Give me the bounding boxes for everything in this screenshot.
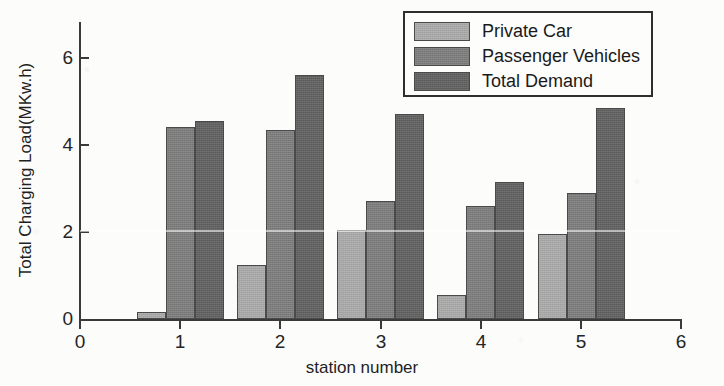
legend-swatch-private-car bbox=[414, 22, 470, 41]
x-tick-0 bbox=[79, 321, 81, 329]
x-tick-label-5: 5 bbox=[571, 332, 591, 351]
y-tick-6 bbox=[81, 57, 89, 59]
legend-label-private-car: Private Car bbox=[482, 21, 572, 42]
x-tick-1 bbox=[179, 321, 181, 329]
legend-item-passenger-vehicles: Passenger Vehicles bbox=[414, 45, 640, 67]
legend-item-private-car: Private Car bbox=[414, 20, 572, 42]
bar-station-1-series-1 bbox=[137, 312, 166, 319]
x-tick-2 bbox=[279, 321, 281, 329]
x-tick-label-3: 3 bbox=[371, 332, 391, 351]
x-tick-3 bbox=[380, 321, 382, 329]
y-tick-4 bbox=[81, 144, 89, 146]
bar-station-4-series-3 bbox=[495, 182, 524, 319]
bar-station-2-series-2 bbox=[266, 130, 295, 319]
legend-swatch-total-demand bbox=[414, 72, 470, 91]
y-tick-label-6: 6 bbox=[57, 48, 73, 67]
x-tick-6 bbox=[680, 321, 682, 329]
bar-station-3-series-3 bbox=[395, 114, 424, 319]
legend-item-total-demand: Total Demand bbox=[414, 70, 593, 92]
x-tick-label-4: 4 bbox=[471, 332, 491, 351]
legend-label-total-demand: Total Demand bbox=[482, 71, 593, 92]
y-tick-label-4: 4 bbox=[57, 135, 73, 154]
legend-swatch-passenger-vehicles bbox=[414, 47, 470, 66]
y-tick-label-2: 2 bbox=[57, 222, 73, 241]
legend-label-passenger-vehicles: Passenger Vehicles bbox=[482, 46, 640, 67]
x-axis-title: station number bbox=[0, 358, 724, 378]
chart-legend: Private Car Passenger Vehicles Total Dem… bbox=[403, 11, 653, 97]
x-tick-4 bbox=[480, 321, 482, 329]
bar-station-2-series-1 bbox=[237, 265, 266, 319]
y-axis-line bbox=[79, 22, 81, 321]
bar-station-5-series-1 bbox=[538, 234, 567, 319]
bar-station-3-series-1 bbox=[337, 230, 366, 319]
bar-station-2-series-3 bbox=[295, 75, 324, 319]
bar-station-4-series-2 bbox=[466, 206, 495, 319]
x-tick-5 bbox=[580, 321, 582, 329]
y-tick-2 bbox=[81, 231, 89, 233]
x-tick-label-2: 2 bbox=[270, 332, 290, 351]
x-tick-label-0: 0 bbox=[70, 332, 90, 351]
y-axis-title: Total Charging Load(MKw.h) bbox=[16, 63, 36, 278]
bar-station-3-series-2 bbox=[366, 201, 395, 319]
bar-station-5-series-3 bbox=[596, 108, 625, 319]
y-axis-title-wrap: Total Charging Load(MKw.h) bbox=[8, 0, 44, 340]
x-tick-label-6: 6 bbox=[671, 332, 691, 351]
y-tick-label-0: 0 bbox=[57, 309, 73, 328]
bar-station-1-series-2 bbox=[166, 127, 195, 319]
chart-page: 6 4 2 0 0 1 2 3 4 5 6 Total Charging Loa… bbox=[0, 0, 724, 386]
x-tick-label-1: 1 bbox=[170, 332, 190, 351]
bar-station-4-series-1 bbox=[437, 295, 466, 319]
bar-station-1-series-3 bbox=[195, 121, 224, 319]
bar-station-5-series-2 bbox=[567, 193, 596, 319]
